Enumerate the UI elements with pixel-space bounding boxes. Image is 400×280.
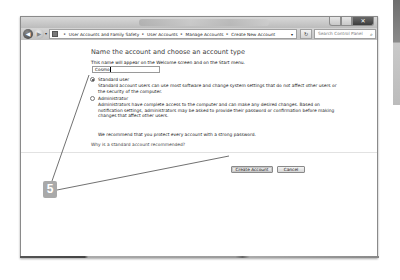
administrator-label[interactable]: Administrator bbox=[98, 96, 128, 101]
standard-user-description: Standard account users can use most soft… bbox=[98, 83, 338, 94]
close-button[interactable]: ✕ bbox=[352, 17, 374, 26]
back-button[interactable]: ◀ bbox=[23, 29, 33, 39]
chevron-right-icon[interactable]: ▸ bbox=[227, 32, 229, 36]
page-title: Name the account and choose an account t… bbox=[91, 48, 245, 56]
forward-arrow-icon: ▶ bbox=[37, 30, 42, 37]
search-input[interactable]: Search Control Panel ⌕ bbox=[314, 29, 376, 39]
page-side-tab bbox=[393, 0, 400, 105]
account-name-input[interactable]: Cosmo bbox=[92, 66, 160, 73]
window-bottom-edge bbox=[20, 256, 379, 258]
account-name-value: Cosmo bbox=[95, 67, 110, 72]
close-icon: ✕ bbox=[360, 17, 365, 24]
minimize-button[interactable] bbox=[329, 17, 341, 26]
navigation-bar: ◀ ▶ ▾ ▸ User Accounts and Family Safety … bbox=[21, 28, 377, 40]
forward-button[interactable]: ▶ bbox=[34, 29, 44, 39]
text-caret bbox=[110, 67, 111, 72]
chevron-right-icon[interactable]: ▸ bbox=[142, 32, 144, 36]
create-account-button[interactable]: Create Account bbox=[231, 166, 273, 173]
divider bbox=[21, 152, 377, 153]
search-placeholder: Search Control Panel bbox=[318, 31, 363, 36]
standard-user-label[interactable]: Standard user bbox=[98, 77, 129, 82]
back-arrow-icon: ◀ bbox=[26, 30, 31, 37]
main-content: Name the account and choose an account t… bbox=[21, 40, 377, 258]
chevron-right-icon[interactable]: ▸ bbox=[64, 32, 66, 36]
chevron-right-icon[interactable]: ▸ bbox=[181, 32, 183, 36]
radio-administrator[interactable]: Administrator bbox=[90, 96, 128, 101]
control-panel-window: ✕ ◀ ▶ ▾ ▸ User Accounts and Family Safet… bbox=[20, 16, 378, 258]
radio-button-unchecked[interactable] bbox=[90, 96, 95, 101]
caption-buttons: ✕ bbox=[329, 17, 374, 26]
step-number-badge: 5 bbox=[43, 181, 57, 198]
search-icon[interactable]: ⌕ bbox=[370, 30, 373, 38]
refresh-icon: ↻ bbox=[304, 31, 308, 37]
password-recommendation: We recommend that you protect every acco… bbox=[98, 132, 256, 137]
radio-standard-user[interactable]: Standard user bbox=[90, 77, 129, 82]
breadcrumb-manage-accounts[interactable]: Manage Accounts bbox=[186, 32, 224, 37]
recent-pages-dropdown[interactable]: ▾ bbox=[45, 31, 47, 36]
address-dropdown-icon[interactable]: ▾ bbox=[291, 32, 293, 37]
address-bar[interactable]: ▸ User Accounts and Family Safety ▸ User… bbox=[49, 29, 297, 39]
administrator-description: Administrators have complete access to t… bbox=[98, 102, 338, 119]
radio-button-checked[interactable] bbox=[90, 77, 95, 82]
name-field-label: This name will appear on the Welcome scr… bbox=[91, 60, 245, 65]
refresh-button[interactable]: ↻ bbox=[300, 29, 312, 39]
cancel-button[interactable]: Cancel bbox=[277, 166, 305, 173]
maximize-button[interactable] bbox=[341, 17, 352, 26]
control-panel-icon bbox=[52, 31, 58, 37]
why-standard-account-link[interactable]: Why is a standard account recommended? bbox=[91, 142, 185, 147]
breadcrumb-user-accounts-family-safety[interactable]: User Accounts and Family Safety bbox=[69, 32, 140, 37]
breadcrumb-create-new-account[interactable]: Create New Account bbox=[231, 32, 275, 37]
title-bar[interactable]: ✕ bbox=[21, 17, 377, 28]
breadcrumb-user-accounts[interactable]: User Accounts bbox=[147, 32, 178, 37]
window-title bbox=[139, 19, 269, 26]
